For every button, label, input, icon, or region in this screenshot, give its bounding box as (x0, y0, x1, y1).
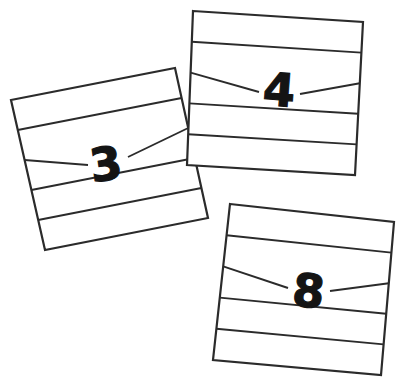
index-card-scene: 8 3 4 (0, 0, 405, 378)
card-digit-8: 8 (290, 263, 327, 320)
cards-canvas: 8 3 4 (0, 0, 405, 378)
index-card-3[interactable]: 3 (11, 68, 208, 250)
index-card-4[interactable]: 4 (187, 11, 363, 175)
card-digit-4: 4 (261, 62, 297, 118)
index-card-8[interactable]: 8 (213, 204, 394, 375)
